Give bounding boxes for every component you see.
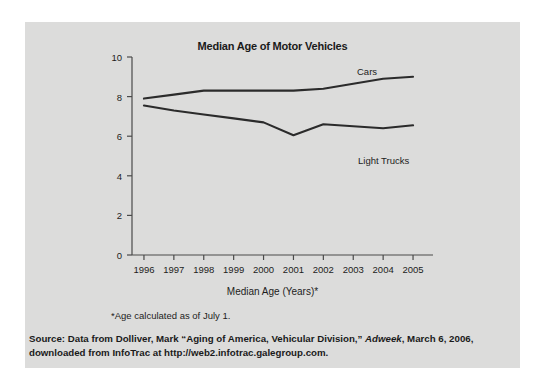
chart-footnote: *Age calculated as of July 1. bbox=[111, 310, 230, 321]
y-tick-10: 10 bbox=[96, 52, 122, 63]
plot-area: 0246810 19961997199819992000200120022003… bbox=[25, 22, 520, 322]
x-axis-title: Median Age (Years)* bbox=[25, 286, 520, 297]
source-citation: Source: Data from Dolliver, Mark “Aging … bbox=[29, 332, 509, 360]
figure-panel: Median Age of Motor Vehicles 0246810 199… bbox=[25, 22, 520, 368]
y-tick-0: 0 bbox=[96, 250, 122, 261]
y-tick-2: 2 bbox=[96, 210, 122, 221]
source-prefix: Source: Data from Dolliver, Mark “Aging … bbox=[29, 333, 365, 344]
source-publication: Adweek bbox=[365, 333, 402, 344]
y-tick-6: 6 bbox=[96, 131, 122, 142]
series-label-cars: Cars bbox=[357, 66, 377, 77]
x-tick-2005: 2005 bbox=[393, 264, 433, 275]
series-label-light-trucks: Light Trucks bbox=[358, 155, 409, 166]
y-tick-8: 8 bbox=[96, 91, 122, 102]
y-tick-4: 4 bbox=[96, 170, 122, 181]
